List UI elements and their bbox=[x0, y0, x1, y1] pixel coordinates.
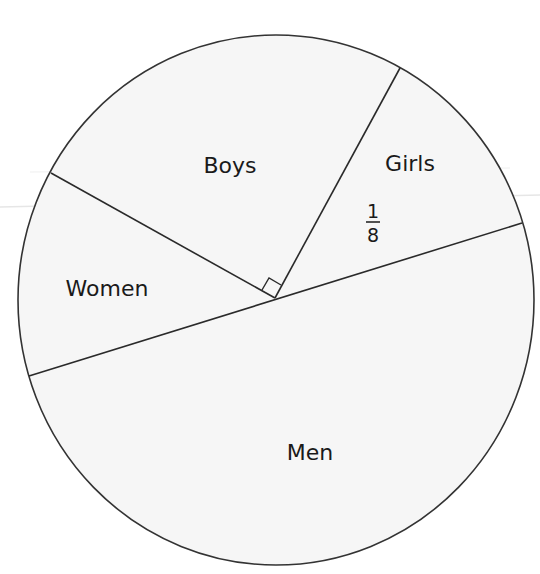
girls-fraction-numerator: 1 bbox=[367, 200, 379, 222]
pie-chart: Boys Girls 1 8 Women Men bbox=[0, 0, 540, 574]
label-girls: Girls bbox=[385, 151, 435, 176]
label-men: Men bbox=[287, 440, 333, 465]
girls-fraction-denominator: 8 bbox=[367, 224, 379, 246]
label-boys: Boys bbox=[203, 153, 256, 178]
label-women: Women bbox=[66, 276, 149, 301]
